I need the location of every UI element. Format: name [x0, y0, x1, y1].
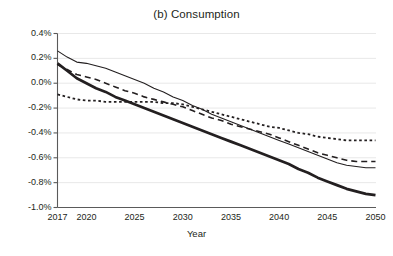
consumption-chart: (b) Consumption 0.4%0.2%0.0%-0.2%-0.4%-0…	[0, 0, 393, 256]
y-tick-label-4: -0.4%	[16, 127, 52, 137]
series-line-dotted	[58, 94, 376, 140]
x-tick-label-4: 2035	[214, 212, 248, 222]
y-tick-label-7: -1.0%	[16, 202, 52, 212]
y-tick-label-0: 0.4%	[16, 28, 52, 38]
x-tick-label-1: 2020	[69, 212, 103, 222]
x-tick-label-7: 2050	[359, 212, 393, 222]
x-axis-title: Year	[0, 228, 393, 239]
series-lines	[58, 51, 376, 195]
x-tick-label-2: 2025	[118, 212, 152, 222]
x-tick-label-5: 2040	[262, 212, 296, 222]
x-tick-label-3: 2030	[166, 212, 200, 222]
y-tick-label-6: -0.8%	[16, 177, 52, 187]
y-tick-label-1: 0.2%	[16, 52, 52, 62]
series-line-dashed	[58, 65, 376, 162]
series-line-thin-solid	[58, 51, 376, 168]
y-tick-label-5: -0.6%	[16, 152, 52, 162]
y-tick-label-3: -0.2%	[16, 102, 52, 112]
axis-ticks	[54, 34, 58, 208]
y-tick-label-2: 0.0%	[16, 77, 52, 87]
x-tick-label-6: 2045	[310, 212, 344, 222]
